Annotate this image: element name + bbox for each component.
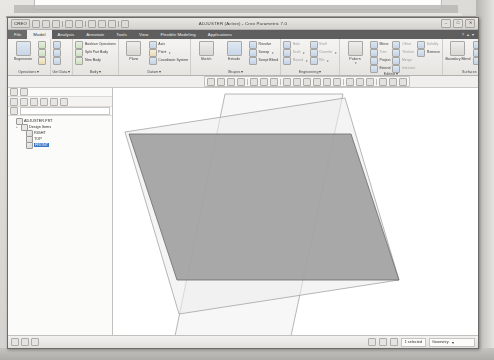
chevron-down-icon[interactable]: ▾ [169,51,171,55]
chevron-down-icon[interactable]: ▾ [355,61,357,65]
ribbon-button-user-defined-feature-icon[interactable] [53,41,63,48]
chevron-down-icon[interactable]: ▾ [327,59,329,63]
collapse-all-icon[interactable] [40,98,48,106]
point-display-icon[interactable] [313,78,321,86]
new-icon[interactable] [32,20,40,28]
ribbon-button-hole[interactable]: Hole [283,41,307,48]
ribbon-button-remove[interactable]: Remove [417,49,440,56]
orientation-icon[interactable] [250,78,258,86]
regenerate-icon[interactable] [88,20,96,28]
show-icon[interactable] [10,88,18,96]
close-button[interactable]: ✕ [465,19,475,28]
open-icon[interactable] [42,20,50,28]
tree-search-icon[interactable] [50,98,58,106]
ribbon-button-extrude[interactable]: Extrude [221,40,247,61]
model-tree-toolbar-top[interactable] [8,88,112,97]
ribbon-button-freestyle[interactable]: Freestyle [473,57,478,64]
ribbon-button-regenerate[interactable]: Regenerate [10,40,36,61]
minimize-ribbon-icon[interactable]: ▴ [467,32,469,37]
ribbon-tab-controls[interactable]: ?▴▾ [462,30,478,39]
selection-filter-icon[interactable] [368,338,376,346]
undo-icon[interactable] [65,20,73,28]
window-icon[interactable] [98,20,106,28]
tab-flexible-modeling[interactable]: Flexible Modeling [155,30,202,39]
ribbon-button-plane[interactable]: Plane [121,40,147,61]
clipboard-icon[interactable] [379,338,387,346]
ribbon-button-copy-geometry-icon[interactable] [53,49,63,56]
zoom-in-icon[interactable] [217,78,225,86]
ribbon-button-new-body[interactable]: New Body [75,57,115,64]
tree-settings-icon[interactable] [60,98,68,106]
tree-node-front[interactable]: FRONT [10,142,112,148]
ribbon[interactable]: RegenerateOperations ▾Get Data ▾Boolean … [8,39,478,76]
shortcut-icon[interactable] [390,338,398,346]
ribbon-button-axis[interactable]: Axis [149,41,188,48]
ribbon-button-intersect[interactable]: Intersect [392,65,415,72]
close-window-icon[interactable] [108,20,116,28]
view-manager-icon[interactable] [270,78,278,86]
filter-icon[interactable] [10,107,18,115]
ribbon-button-coordinate-system[interactable]: Coordinate System [149,57,188,64]
ribbon-button-copy-icon[interactable] [38,41,48,48]
datum-display-icon[interactable] [283,78,291,86]
tab-annotate[interactable]: Annotate [80,30,110,39]
ribbon-button-pattern[interactable]: Pattern▾ [342,40,368,65]
ribbon-button-boundary-blend[interactable]: Boundary Blend [445,40,471,61]
status-bar-left[interactable] [11,338,39,346]
drag-icon[interactable] [399,78,407,86]
graphics-canvas[interactable] [113,88,478,335]
redo-icon[interactable] [75,20,83,28]
chevron-down-icon[interactable]: ▾ [335,51,337,55]
ribbon-button-solidify[interactable]: Solidify [417,41,440,48]
message-log-icon[interactable] [11,338,19,346]
ribbon-button-revolve[interactable]: Revolve [249,41,278,48]
chevron-down-icon[interactable]: ▾ [272,51,274,55]
ribbon-button-extend[interactable]: Extend [370,65,390,72]
tree-filter-input[interactable] [20,107,110,115]
ribbon-button-thicken[interactable]: Thicken [392,49,415,56]
tab-model[interactable]: Model [27,30,51,39]
maximize-button[interactable]: □ [453,19,463,28]
annotation-display-icon[interactable] [333,78,341,86]
ribbon-button-rib[interactable]: Rib▾ [310,57,337,64]
plane-display-icon[interactable] [293,78,301,86]
customize-qat-icon[interactable] [121,20,129,28]
refit-icon[interactable] [237,78,245,86]
spin-center-icon[interactable] [346,78,354,86]
model-tree-filter-bar[interactable] [8,107,112,116]
ribbon-button-point[interactable]: Point▾ [149,49,188,56]
model-tree-toolbar[interactable] [8,97,112,107]
tree-columns-icon[interactable] [20,98,28,106]
settings-icon[interactable] [20,88,28,96]
ribbon-button-sketch[interactable]: Sketch [193,40,219,61]
ribbon-tab-bar[interactable]: FileModelAnalysisAnnotateToolsViewFlexib… [8,30,478,39]
save-icon[interactable] [52,20,60,28]
ribbon-button-project[interactable]: Project [370,57,390,64]
tree-filters-icon[interactable] [10,98,18,106]
ribbon-options-icon[interactable]: ▾ [472,32,474,37]
appearance-icon[interactable] [379,78,387,86]
browser-icon[interactable] [31,338,39,346]
ribbon-button-offset[interactable]: Offset [392,41,415,48]
ribbon-button-chamfer[interactable]: Chamfer▾ [310,49,337,56]
ribbon-button-sweep[interactable]: Sweep▾ [249,49,278,56]
ribbon-button-boolean-operations[interactable]: Boolean Operations [75,41,115,48]
expand-icon[interactable]: + [15,125,19,129]
graphics-toolbar[interactable] [204,76,410,87]
tab-file[interactable]: File [8,30,27,39]
ribbon-button-split-part-body[interactable]: Split Part Body [75,49,115,56]
chevron-down-icon[interactable]: ▾ [452,340,454,345]
expand-all-icon[interactable] [30,98,38,106]
perspective-icon[interactable] [366,78,374,86]
saved-views-icon[interactable] [260,78,268,86]
model-tree-icon[interactable] [21,338,29,346]
ribbon-button-trim[interactable]: Trim [370,49,390,56]
window-controls[interactable]: – □ ✕ [441,19,478,28]
ribbon-button-draft[interactable]: Draft▾ [283,49,307,56]
help-icon[interactable]: ? [462,32,464,37]
ribbon-button-delete-icon[interactable] [38,57,48,64]
status-bar-right[interactable]: 1 selected Geometry ▾ [368,338,475,347]
axis-display-icon[interactable] [303,78,311,86]
chevron-down-icon[interactable]: ▾ [306,59,308,63]
ribbon-button-shell[interactable]: Shell [310,41,337,48]
